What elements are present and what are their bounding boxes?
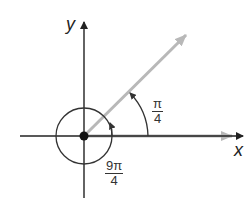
terminal-side-ray [84, 35, 186, 136]
origin-point [80, 132, 89, 141]
reference-angle-numerator: π [152, 97, 163, 112]
reference-angle-label: π 4 [152, 97, 163, 126]
reference-angle-denominator: 4 [152, 112, 163, 126]
coterminal-angle-label: 9π 4 [105, 159, 123, 188]
angle-diagram [0, 0, 252, 198]
coterminal-angle-denominator: 4 [105, 174, 123, 188]
x-axis-label: x [234, 140, 243, 161]
y-axis-label: y [66, 14, 75, 35]
coterminal-angle-numerator: 9π [105, 159, 123, 174]
reference-angle-arc [130, 93, 148, 136]
